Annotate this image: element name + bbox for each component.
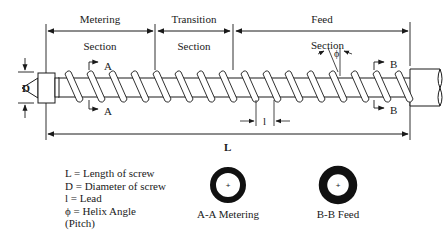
section-b-bottom-label: B bbox=[390, 104, 397, 116]
legend-helix-angle: ϕ = Helix Angle bbox=[65, 205, 166, 218]
metering-label: Metering bbox=[80, 13, 120, 25]
section-a-top-label: A bbox=[104, 60, 112, 72]
svg-text:+: + bbox=[226, 181, 231, 190]
cross-section-b-label: B-B Feed bbox=[317, 208, 359, 220]
diameter-label: D bbox=[22, 82, 30, 94]
legend-diameter: D = Diameter of screw bbox=[65, 180, 166, 193]
svg-text:+: + bbox=[336, 181, 341, 190]
transition-label: Transition bbox=[172, 13, 217, 25]
lead-label: l bbox=[263, 115, 266, 127]
section-b-top-label: B bbox=[390, 58, 397, 70]
screw-shank bbox=[410, 69, 442, 106]
metering-section-label: Section bbox=[84, 40, 117, 52]
legend-pitch: (Pitch) bbox=[65, 217, 166, 230]
helix-angle-symbol: ϕ bbox=[334, 48, 339, 60]
cross-section-a: + bbox=[213, 170, 243, 200]
transition-section-label: Section bbox=[178, 40, 211, 52]
section-a-bottom-label: A bbox=[104, 105, 112, 117]
legend-lead: l = Lead bbox=[65, 192, 166, 205]
feed-label: Feed bbox=[311, 13, 332, 25]
legend-length: L = Length of screw bbox=[65, 167, 166, 180]
cross-section-a-label: A-A Metering bbox=[197, 208, 259, 220]
screw-tip-collar bbox=[38, 73, 55, 103]
length-label: L bbox=[224, 141, 231, 153]
cross-section-b: + bbox=[323, 170, 353, 200]
legend: L = Length of screw D = Diameter of scre… bbox=[65, 167, 166, 230]
